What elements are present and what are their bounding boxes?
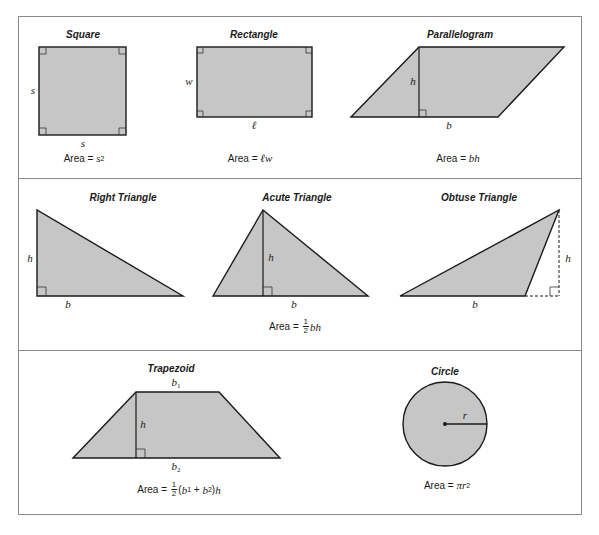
circle-title: Circle xyxy=(431,366,459,377)
h-var: h xyxy=(215,484,221,496)
formula-exponent: 2 xyxy=(100,155,104,162)
trapezoid-height-label: h xyxy=(140,418,146,430)
fraction-one-half: 1 2 xyxy=(171,481,177,498)
fraction-one-half: 1 2 xyxy=(303,318,309,335)
square-shape xyxy=(39,47,126,135)
right-triangle-shape xyxy=(37,210,183,296)
obtuse-triangle-base-label: b xyxy=(472,298,478,310)
parallelogram-title: Parallelogram xyxy=(427,29,493,40)
trapezoid-area-formula: Area = 1 2 ( b1 + b2 ) h xyxy=(137,481,220,498)
obtuse-triangle-shape xyxy=(400,210,559,296)
formula-prefix: Area = xyxy=(436,153,469,164)
formula-prefix: Area = xyxy=(137,484,170,495)
acute-triangle-shape xyxy=(213,210,368,296)
rectangle-length-label: ℓ xyxy=(252,119,257,131)
parallelogram-base-label: b xyxy=(446,119,452,131)
base-subscript: 1 xyxy=(177,382,181,390)
formula-prefix: Area = xyxy=(228,153,261,164)
parallelogram-shape xyxy=(351,47,564,117)
right-triangle-base-label: b xyxy=(65,298,71,310)
parallelogram-height-label: h xyxy=(410,75,416,87)
square-title: Square xyxy=(66,29,100,40)
rectangle-title: Rectangle xyxy=(230,29,278,40)
acute-triangle-title: Acute Triangle xyxy=(262,192,331,203)
base-subscript: 2 xyxy=(177,466,181,474)
square-side-label-bottom: s xyxy=(81,137,85,149)
fraction-denominator: 2 xyxy=(172,490,176,498)
fraction-denominator: 2 xyxy=(304,327,308,335)
formula-variable: bh xyxy=(469,152,480,164)
formula-prefix: Area = xyxy=(424,480,457,491)
square-side-label-left: s xyxy=(31,84,35,96)
triangle-area-formula: Area = 1 2 bh xyxy=(269,318,321,335)
acute-triangle-height-label: h xyxy=(268,251,274,263)
formula-variable: πr xyxy=(456,479,466,491)
rectangle-area-formula: Area = ℓw xyxy=(228,152,272,164)
right-triangle-height-label: h xyxy=(27,252,33,264)
obtuse-triangle-title: Obtuse Triangle xyxy=(441,192,517,203)
circle-area-formula: Area = πr 2 xyxy=(424,479,470,491)
right-angle-mark xyxy=(550,287,559,296)
trapezoid-title: Trapezoid xyxy=(147,363,194,374)
trapezoid-shape xyxy=(73,392,280,458)
formula-variable: ℓw xyxy=(260,152,272,164)
area-formulas-diagram xyxy=(0,0,599,535)
trapezoid-top-base-label: b1 xyxy=(172,376,181,390)
right-triangle-title: Right Triangle xyxy=(89,192,156,203)
obtuse-triangle-height-label: h xyxy=(565,252,571,264)
formula-prefix: Area = xyxy=(64,153,97,164)
formula-prefix: Area = xyxy=(269,321,302,332)
acute-triangle-base-label: b xyxy=(291,298,297,310)
trapezoid-bottom-base-label: b2 xyxy=(172,460,181,474)
circle-radius-label: r xyxy=(463,409,467,421)
rectangle-width-label: w xyxy=(185,75,192,87)
plus-sign: + xyxy=(191,484,202,495)
formula-variable: bh xyxy=(310,321,321,333)
circle-shape xyxy=(403,382,487,466)
formula-exponent: 2 xyxy=(466,482,470,489)
center-point xyxy=(443,422,447,426)
rectangle-shape xyxy=(197,47,312,117)
square-area-formula: Area = s 2 xyxy=(64,152,105,164)
parallelogram-area-formula: Area = bh xyxy=(436,152,480,164)
